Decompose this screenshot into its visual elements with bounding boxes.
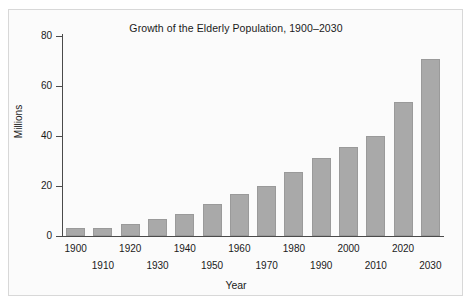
x-tick-label: 2020: [383, 243, 423, 254]
chart-figure: Growth of the Elderly Population, 1900–2…: [0, 0, 472, 306]
x-tick-label: 1930: [138, 260, 178, 271]
x-tick-label: 1940: [165, 243, 205, 254]
x-tick-label: 1960: [219, 243, 259, 254]
bar: [366, 136, 385, 237]
x-tick-label: 2000: [329, 243, 369, 254]
x-tick-label: 1920: [110, 243, 150, 254]
y-tick-label-wrap: 0: [18, 231, 52, 241]
y-axis-title: Millions: [13, 87, 24, 157]
x-tick-label: 2030: [410, 260, 450, 271]
bar: [394, 102, 413, 236]
bar: [257, 186, 276, 236]
bar: [66, 228, 85, 236]
x-tick-label: 1950: [192, 260, 232, 271]
x-tick-label: 2010: [356, 260, 396, 271]
bar: [93, 228, 112, 236]
bar: [175, 214, 194, 237]
bar: [421, 59, 440, 236]
y-tick-label: 40: [22, 131, 52, 141]
y-tick-label: 20: [22, 181, 52, 191]
bar: [203, 204, 222, 236]
bar: [284, 172, 303, 236]
y-tick-label: 0: [22, 231, 52, 241]
x-tick-label: 1990: [301, 260, 341, 271]
y-tick-label-wrap: 80: [18, 31, 52, 41]
y-tick-label: 80: [22, 31, 52, 41]
bar-series: [62, 33, 444, 236]
x-axis-title: Year: [0, 279, 472, 291]
bar: [148, 219, 167, 236]
y-tick-label-wrap: 20: [18, 181, 52, 191]
bar: [121, 224, 140, 236]
bar: [230, 194, 249, 236]
bar: [339, 147, 358, 236]
x-tick-label: 1970: [247, 260, 287, 271]
y-tick-mark: [56, 236, 62, 237]
x-axis-line: [62, 236, 444, 237]
x-tick-label: 1910: [83, 260, 123, 271]
x-tick-label: 1980: [274, 243, 314, 254]
bar: [312, 158, 331, 236]
x-tick-label: 1900: [56, 243, 96, 254]
y-tick-label: 60: [22, 81, 52, 91]
